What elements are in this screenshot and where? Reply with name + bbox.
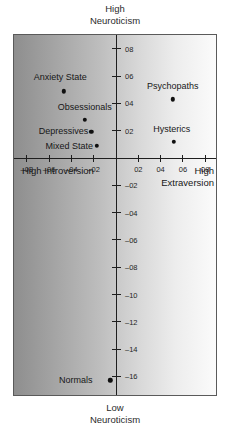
data-point [172, 139, 176, 143]
top-caption-line2: Neuroticism [0, 15, 230, 27]
y-tick-mark [112, 185, 121, 186]
bottom-caption-line1: Low [0, 402, 230, 414]
bottom-caption-line2: Neuroticism [0, 414, 230, 426]
y-tick-label: 04 [125, 99, 133, 108]
y-tick-mark [112, 130, 121, 131]
x-tick-mark [138, 155, 139, 162]
y-tick-mark [112, 267, 121, 268]
data-point [108, 378, 112, 382]
data-point-label: Obsessionals [58, 102, 112, 112]
data-point [61, 89, 65, 93]
y-tick-label: –10 [125, 290, 138, 299]
extraversion-line1: High [148, 165, 214, 177]
bottom-axis-caption: Low Neuroticism [0, 402, 230, 425]
scatter-plot-area: –08–06–04–0202040608 08060402–02–04–06–0… [13, 34, 217, 396]
y-tick-label: 02 [125, 126, 133, 135]
introversion-line1: High [22, 165, 42, 176]
y-axis-line [116, 35, 117, 396]
x-tick-label: 02 [134, 165, 142, 174]
y-tick-mark [112, 48, 121, 49]
data-point [171, 97, 175, 101]
quadrant-label-introversion: High Introversion [22, 165, 94, 177]
data-point-label: Hysterics [153, 124, 190, 134]
y-tick-mark [112, 376, 121, 377]
data-point [95, 144, 99, 148]
quadrant-label-extraversion: High Extraversion [148, 165, 214, 188]
x-tick-mark [26, 155, 27, 162]
y-tick-mark [112, 76, 121, 77]
data-point-label: Anxiety State [34, 72, 87, 82]
data-point [89, 130, 93, 134]
data-point-label: Depressives [39, 126, 89, 136]
extraversion-line2: Extraversion [148, 177, 214, 189]
y-tick-label: –12 [125, 317, 138, 326]
x-tick-mark [49, 155, 50, 162]
y-tick-mark [112, 103, 121, 104]
y-tick-label: 06 [125, 72, 133, 81]
introversion-line2: Introversion [44, 165, 94, 176]
top-caption-line1: High [0, 3, 230, 15]
x-tick-mark [71, 155, 72, 162]
data-point-label: Normals [59, 375, 93, 385]
y-tick-mark [112, 321, 121, 322]
y-tick-label: –08 [125, 263, 138, 272]
x-tick-mark [93, 155, 94, 162]
y-tick-label: –16 [125, 372, 138, 381]
y-tick-mark [112, 349, 121, 350]
data-point [83, 118, 87, 122]
data-point-label: Mixed State [45, 141, 93, 151]
data-point-label: Psychopaths [147, 81, 199, 91]
y-tick-mark [112, 239, 121, 240]
y-tick-label: 08 [125, 44, 133, 53]
y-tick-mark [112, 212, 121, 213]
y-tick-label: –02 [125, 181, 138, 190]
y-tick-label: –14 [125, 345, 138, 354]
x-axis-line [14, 158, 217, 159]
y-tick-mark [112, 294, 121, 295]
top-axis-caption: High Neuroticism [0, 3, 230, 26]
x-tick-mark [182, 155, 183, 162]
y-tick-label: –04 [125, 208, 138, 217]
x-tick-mark [205, 155, 206, 162]
x-tick-mark [160, 155, 161, 162]
y-tick-label: –06 [125, 235, 138, 244]
